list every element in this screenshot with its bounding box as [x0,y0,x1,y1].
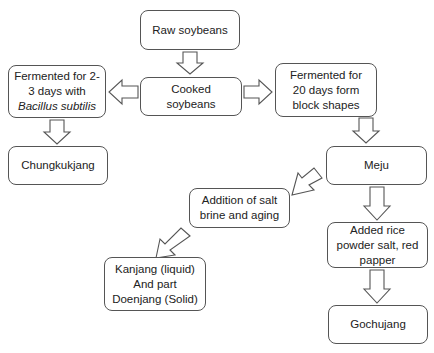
arrow-down-icon [353,118,379,143]
arrow-down-icon [44,120,70,144]
node-label: Meju [364,158,389,173]
node-cooked-soybeans: Cooked soybeans [140,77,242,116]
node-label-line: block shapes [292,98,359,113]
node-label-line: brine and aging [200,208,279,223]
node-label-line: Doenjang (Solid) [112,292,198,307]
node-chungkukjang: Chungkukjang [8,146,108,185]
node-label-line: 3 days with [28,84,86,99]
node-fermented-short: Fermented for 2- 3 days with Bacillus su… [8,65,106,118]
node-kanjang-doenjang: Kanjang (liquid) And part Doenjang (Soli… [104,257,206,311]
node-raw-soybeans: Raw soybeans [140,10,240,50]
node-label-line: Bacillus subtilis [18,99,96,114]
node-label-line: Addition of salt [202,193,277,208]
node-fermented-long: Fermented for 20 days form block shapes [275,63,377,117]
arrow-diagonal-icon [156,228,190,258]
node-label-line: Kanjang (liquid) [115,262,195,277]
node-label-line: Fermented for 2- [14,69,100,84]
arrow-down-icon [364,270,390,303]
node-label-line: And part [133,277,176,292]
node-added-rice: Added rice powder salt, red papper [327,222,428,268]
node-label: Raw soybeans [152,23,227,38]
node-label-line: papper [360,253,396,268]
node-gochujang: Gochujang [328,305,428,344]
arrow-down-icon [364,187,390,220]
node-label-line: 20 days form [293,83,359,98]
node-label-line: Fermented for [290,68,362,83]
node-label: Chungkukjang [21,158,95,173]
arrow-left-icon [109,80,138,104]
node-label: Cooked soybeans [145,82,237,112]
node-salt-brine: Addition of salt brine and aging [189,188,290,228]
node-meju: Meju [326,146,427,185]
node-label-line: Added rice [350,223,405,238]
node-label: Gochujang [350,317,406,332]
arrow-down-icon [177,52,203,74]
arrow-diagonal-icon [292,168,322,195]
node-label-line: powder salt, red [337,238,419,253]
arrow-right-icon [244,80,272,104]
